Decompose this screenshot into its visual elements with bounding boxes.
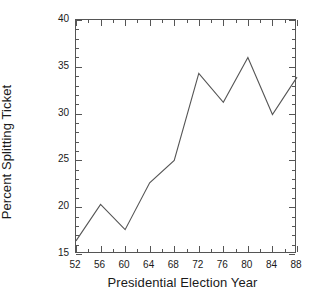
y-tick-label: 35 xyxy=(49,61,69,71)
x-tick-major-top xyxy=(174,20,175,26)
x-tick-major xyxy=(223,246,224,252)
series-line-percent-splitting-ticket xyxy=(76,57,297,240)
x-tick-minor xyxy=(187,249,188,252)
x-tick-minor xyxy=(88,249,89,252)
y-tick-minor xyxy=(76,217,79,218)
x-tick-major-top xyxy=(223,20,224,26)
x-tick-label: 72 xyxy=(186,260,210,270)
y-tick-minor-right xyxy=(292,170,295,171)
x-tick-minor xyxy=(162,249,163,252)
x-tick-label: 84 xyxy=(259,260,283,270)
y-tick-minor-right xyxy=(292,48,295,49)
y-tick-minor xyxy=(76,29,79,30)
y-tick-label: 20 xyxy=(49,201,69,211)
y-tick-minor-right xyxy=(292,188,295,189)
y-tick-major-right xyxy=(289,160,295,161)
y-tick-major xyxy=(76,67,82,68)
y-tick-minor xyxy=(76,198,79,199)
y-tick-minor-right xyxy=(292,245,295,246)
x-tick-minor xyxy=(285,249,286,252)
x-tick-major-top xyxy=(199,20,200,26)
y-tick-minor-right xyxy=(292,235,295,236)
x-tick-label: 56 xyxy=(88,260,112,270)
y-tick-minor xyxy=(76,76,79,77)
data-line-svg xyxy=(76,20,297,254)
x-tick-minor xyxy=(211,249,212,252)
x-tick-major xyxy=(76,246,77,252)
x-tick-minor-top xyxy=(236,20,237,23)
y-tick-label: 40 xyxy=(49,14,69,24)
x-tick-major-top xyxy=(248,20,249,26)
y-tick-major-right xyxy=(289,254,295,255)
x-tick-major xyxy=(150,246,151,252)
y-tick-minor xyxy=(76,123,79,124)
y-tick-minor xyxy=(76,188,79,189)
x-tick-major-top xyxy=(125,20,126,26)
x-tick-major xyxy=(101,246,102,252)
x-tick-major xyxy=(297,246,298,252)
y-tick-major-right xyxy=(289,207,295,208)
x-tick-major xyxy=(199,246,200,252)
x-tick-label: 76 xyxy=(210,260,234,270)
y-tick-minor-right xyxy=(292,132,295,133)
x-tick-minor-top xyxy=(88,20,89,23)
y-tick-minor-right xyxy=(292,29,295,30)
x-tick-minor-top xyxy=(162,20,163,23)
y-tick-major-right xyxy=(289,20,295,21)
x-tick-minor-top xyxy=(211,20,212,23)
y-tick-minor-right xyxy=(292,104,295,105)
x-tick-major-top xyxy=(272,20,273,26)
y-tick-minor-right xyxy=(292,151,295,152)
y-tick-minor xyxy=(76,235,79,236)
y-tick-major xyxy=(76,254,82,255)
y-tick-minor-right xyxy=(292,86,295,87)
x-tick-major xyxy=(125,246,126,252)
plot-area xyxy=(75,19,296,253)
x-tick-major xyxy=(272,246,273,252)
x-tick-minor-top xyxy=(113,20,114,23)
y-tick-minor-right xyxy=(292,198,295,199)
y-tick-minor-right xyxy=(292,95,295,96)
y-tick-minor xyxy=(76,142,79,143)
x-tick-minor xyxy=(236,249,237,252)
y-tick-minor-right xyxy=(292,57,295,58)
y-tick-minor xyxy=(76,57,79,58)
y-axis-title-text: Percent Splitting Ticket xyxy=(0,85,14,220)
y-tick-minor-right xyxy=(292,217,295,218)
y-tick-minor xyxy=(76,179,79,180)
y-tick-minor xyxy=(76,86,79,87)
y-tick-minor-right xyxy=(292,123,295,124)
x-tick-minor xyxy=(113,249,114,252)
y-tick-minor-right xyxy=(292,39,295,40)
x-tick-label: 52 xyxy=(63,260,87,270)
y-tick-minor xyxy=(76,132,79,133)
x-tick-major-top xyxy=(76,20,77,26)
y-tick-label: 15 xyxy=(49,248,69,258)
x-tick-major-top xyxy=(297,20,298,26)
y-tick-minor-right xyxy=(292,142,295,143)
x-axis-title: Presidential Election Year xyxy=(60,275,305,290)
x-tick-label: 80 xyxy=(235,260,259,270)
y-tick-major xyxy=(76,114,82,115)
y-tick-minor xyxy=(76,151,79,152)
y-tick-major xyxy=(76,207,82,208)
y-axis-title: Percent Splitting Ticket xyxy=(0,0,44,304)
y-tick-minor xyxy=(76,170,79,171)
x-tick-minor-top xyxy=(187,20,188,23)
x-tick-label: 88 xyxy=(284,260,308,270)
x-tick-major xyxy=(174,246,175,252)
x-tick-minor-top xyxy=(137,20,138,23)
x-tick-major-top xyxy=(101,20,102,26)
y-tick-label: 30 xyxy=(49,108,69,118)
y-tick-major-right xyxy=(289,114,295,115)
y-tick-minor xyxy=(76,104,79,105)
x-tick-minor-top xyxy=(285,20,286,23)
x-tick-minor-top xyxy=(260,20,261,23)
y-tick-minor xyxy=(76,48,79,49)
x-tick-minor xyxy=(137,249,138,252)
y-tick-minor-right xyxy=(292,226,295,227)
x-tick-minor xyxy=(260,249,261,252)
y-tick-major-right xyxy=(289,67,295,68)
y-tick-major xyxy=(76,160,82,161)
x-tick-major xyxy=(248,246,249,252)
